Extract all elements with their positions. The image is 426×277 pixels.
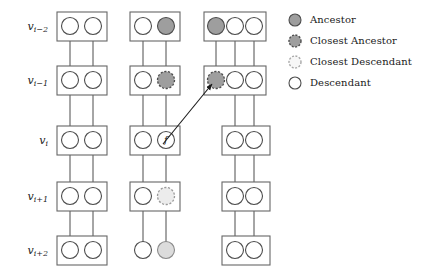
node-descendant[interactable] xyxy=(246,188,263,205)
row-label-subscript: i−1 xyxy=(34,79,48,88)
node-descendant[interactable] xyxy=(246,72,263,89)
row-label-subscript: i+2 xyxy=(34,249,48,258)
row-label-v-i-minus-1: vi−1 xyxy=(2,74,48,88)
row-label-v-i-plus-1: vi+1 xyxy=(2,190,48,204)
legend-label-descendant: Descendant xyxy=(310,77,371,88)
column-left xyxy=(57,12,107,265)
node-descendant[interactable] xyxy=(135,242,152,259)
node-descendant[interactable] xyxy=(135,188,152,205)
column-middle xyxy=(130,12,180,259)
dashed-light-circle-icon xyxy=(289,56,301,68)
node-descendant[interactable] xyxy=(62,132,79,149)
node-descendant[interactable] xyxy=(135,18,152,35)
row-label-v-i: vi xyxy=(2,134,48,148)
node-descendant[interactable] xyxy=(227,132,244,149)
row-label-subscript: i xyxy=(45,139,48,148)
row-label-v-i-plus-2: vi+2 xyxy=(2,244,48,258)
node-closest-descendant[interactable] xyxy=(158,188,175,205)
dashed-gray-circle-icon xyxy=(289,35,301,47)
node-closest-ancestor[interactable] xyxy=(158,72,175,89)
node-descendant[interactable] xyxy=(85,18,102,35)
node-descendant[interactable] xyxy=(135,72,152,89)
node-descendant[interactable] xyxy=(62,242,79,259)
node-descendant[interactable] xyxy=(62,72,79,89)
legend-label-ancestor: Ancestor xyxy=(310,14,356,25)
node-descendant[interactable] xyxy=(227,242,244,259)
node-descendant[interactable] xyxy=(246,132,263,149)
node-descendant[interactable] xyxy=(85,242,102,259)
filled-gray-circle-icon xyxy=(289,14,301,26)
node-descendant[interactable] xyxy=(246,242,263,259)
node-descendant[interactable] xyxy=(135,132,152,149)
node-ancestor[interactable] xyxy=(208,18,225,35)
node-descendant[interactable] xyxy=(85,72,102,89)
legend-label-closest-ancestor: Closest Ancestor xyxy=(310,35,397,46)
node-descendant[interactable] xyxy=(85,188,102,205)
open-circle-icon xyxy=(289,77,301,89)
node-descendant[interactable] xyxy=(227,188,244,205)
node-f-label: f xyxy=(164,134,168,145)
node-descendant[interactable] xyxy=(85,132,102,149)
node-descendant[interactable] xyxy=(62,188,79,205)
node-descendant[interactable] xyxy=(227,72,244,89)
node-ancestor[interactable] xyxy=(158,18,175,35)
legend-swatches xyxy=(289,14,301,89)
row-label-subscript: i−2 xyxy=(34,25,48,34)
row-label-v-i-minus-2: vi−2 xyxy=(2,20,48,34)
column-right xyxy=(204,12,270,265)
column-middle-boxes xyxy=(130,12,180,211)
node-descendant[interactable] xyxy=(62,18,79,35)
node-descendant[interactable] xyxy=(246,18,263,35)
legend-label-closest-descendant: Closest Descendant xyxy=(310,56,412,67)
node-descendant[interactable] xyxy=(227,18,244,35)
row-label-subscript: i+1 xyxy=(34,195,48,204)
node-light-gray[interactable] xyxy=(158,242,175,259)
